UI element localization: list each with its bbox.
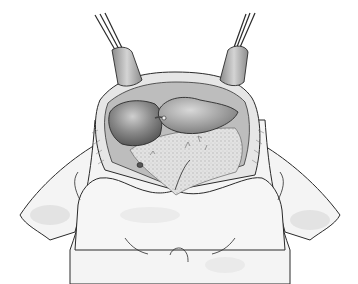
vessel-end (162, 116, 166, 120)
thorax-drawing (0, 0, 358, 284)
organ-left (109, 101, 162, 146)
drain-hole (137, 163, 143, 168)
anatomical-illustration (0, 0, 358, 284)
retractor-right (220, 13, 255, 86)
retractor-left (95, 13, 142, 86)
